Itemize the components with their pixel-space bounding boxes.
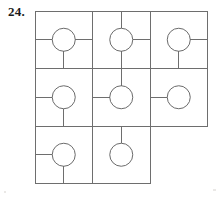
paper-speck: [213, 189, 216, 191]
cell-r2c3-circle: [167, 86, 190, 109]
cell-r3c2-circle: [110, 143, 133, 166]
figure-container: 24.: [0, 0, 221, 198]
circles-group: [52, 28, 190, 166]
cell-r2c1-circle: [52, 86, 75, 109]
grid-outline-group: [35, 11, 208, 184]
cell-r1c2-circle: [110, 28, 133, 51]
paper-speck: [4, 191, 6, 193]
cell-r1c3-circle: [167, 28, 190, 51]
puzzle-diagram: [0, 0, 221, 198]
cell-r2c2-circle: [110, 86, 133, 109]
cell-r1c1-circle: [52, 28, 75, 51]
cell-r3c1-circle: [52, 143, 75, 166]
connector-stubs-group: [35, 11, 208, 184]
